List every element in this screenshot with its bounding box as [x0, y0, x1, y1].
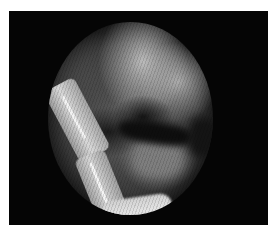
endoscopic-view: [48, 22, 213, 215]
instrument-highlight: [89, 162, 108, 204]
tissue-region: [133, 142, 183, 177]
instrument-highlight: [61, 95, 86, 139]
image-frame: [9, 11, 268, 225]
dark-cavity-right: [188, 117, 213, 157]
